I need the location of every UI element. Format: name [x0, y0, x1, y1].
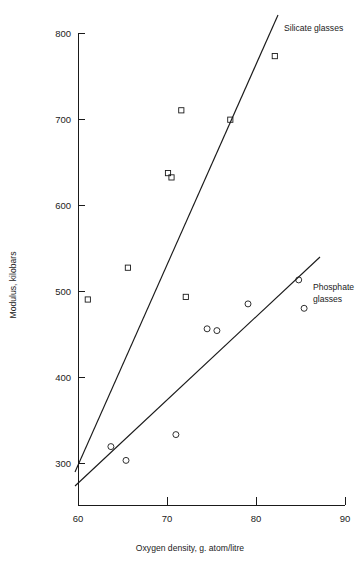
phosphate-trend-line [75, 257, 320, 486]
data-point-circle [173, 432, 179, 438]
x-tick-label-70: 70 [162, 513, 173, 524]
x-tick-label-90: 90 [340, 513, 351, 524]
chart-figure: 800 700 600 500 400 300 60 70 80 90 Oxyg… [0, 0, 363, 570]
data-point-circle [108, 444, 114, 450]
data-point-circle [296, 277, 302, 283]
axis-spines [78, 33, 345, 505]
phosphate-series-label-line2: glasses [313, 294, 342, 304]
x-tick-label-60: 60 [73, 513, 84, 524]
silicate-series-label: Silicate glasses [284, 23, 343, 33]
y-tick-label-400: 400 [55, 372, 71, 383]
data-point-circle [301, 305, 307, 311]
silicate-data-points [85, 54, 277, 303]
data-point-circle [245, 301, 251, 307]
y-tick-label-500: 500 [55, 286, 71, 297]
silicate-trend-line [75, 15, 278, 472]
y-tick-label-800: 800 [55, 28, 71, 39]
y-tick-label-600: 600 [55, 200, 71, 211]
data-point-square [272, 54, 277, 59]
data-point-circle [214, 328, 220, 334]
x-tick-label-80: 80 [251, 513, 262, 524]
x-axis-title: Oxygen density, g. atom/litre [136, 543, 244, 553]
y-axis-ticks [78, 33, 85, 463]
y-axis-title: Modulus, kilobars [8, 252, 18, 319]
data-point-square [125, 265, 130, 270]
data-point-square [179, 108, 184, 113]
x-axis-ticks [78, 497, 345, 505]
scatter-plot-canvas: 800 700 600 500 400 300 60 70 80 90 Oxyg… [0, 0, 363, 570]
phosphate-series-label-line1: Phosphate [313, 282, 354, 292]
y-tick-label-700: 700 [55, 114, 71, 125]
data-point-square [183, 294, 188, 299]
data-point-square [85, 297, 90, 302]
y-tick-label-300: 300 [55, 458, 71, 469]
data-point-circle [204, 326, 210, 332]
data-point-circle [123, 457, 129, 463]
phosphate-data-points [108, 277, 307, 464]
